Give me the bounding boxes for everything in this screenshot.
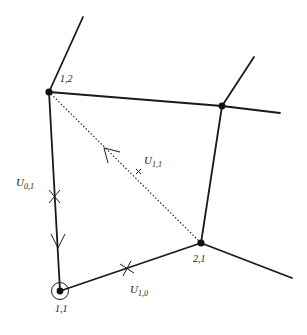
- vertex-label-1-1: 1,1: [55, 303, 68, 314]
- edge-label-u11: U1,1: [144, 154, 162, 169]
- cross-mark-u11: [136, 169, 141, 174]
- edge-top-right-right: [222, 106, 280, 113]
- arrow-up-left-icon: [104, 148, 120, 163]
- edge-2-1-down-right: [201, 243, 292, 278]
- node-1-2: [45, 88, 52, 95]
- vertex-label-1-2: 1,2: [60, 73, 73, 84]
- edge-label-u10: U1,0: [130, 283, 148, 298]
- edge-label-u01: U0,1: [16, 176, 34, 191]
- node-top-right: [219, 103, 226, 110]
- edge-u11-diagonal: [49, 92, 201, 243]
- edge-1-2-to-top-right: [49, 92, 222, 106]
- edge-top-right-up: [222, 57, 254, 106]
- cross-mark-u10: [120, 261, 134, 276]
- edge-top-right-to-2-1: [201, 106, 222, 243]
- node-1-1: [57, 288, 64, 295]
- node-2-1: [197, 239, 204, 246]
- graph-diagram: 1,2 2,1 1,1 U0,1 U1,0 U1,1: [0, 0, 307, 335]
- vertex-label-2-1: 2,1: [193, 253, 206, 264]
